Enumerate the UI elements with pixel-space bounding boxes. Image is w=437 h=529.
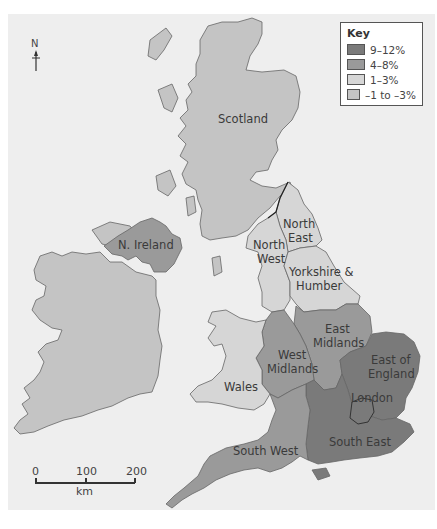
label-wales: Wales bbox=[224, 380, 258, 394]
key-label: –1 to –3% bbox=[365, 89, 416, 101]
north-arrow-icon bbox=[28, 38, 44, 72]
scale-tick bbox=[134, 478, 136, 483]
isle-of-wight bbox=[312, 468, 330, 480]
label-yorkshire-1: Yorkshire & bbox=[288, 265, 354, 279]
key-swatch-minus-1-3 bbox=[347, 89, 360, 100]
key-label: 1–3% bbox=[370, 74, 399, 86]
key-item: 9–12% bbox=[347, 42, 416, 57]
label-north-east-1: North bbox=[283, 217, 315, 231]
label-south-west: South West bbox=[233, 444, 299, 458]
label-west-midlands-2: Midlands bbox=[267, 362, 318, 376]
key-title: Key bbox=[347, 27, 416, 40]
island bbox=[158, 84, 178, 112]
key-item: 1–3% bbox=[347, 72, 416, 87]
scale-tick bbox=[35, 478, 37, 483]
isle-of-man bbox=[212, 256, 222, 276]
island bbox=[156, 170, 176, 196]
label-north-west-1: North bbox=[253, 238, 285, 252]
key-swatch-9-12 bbox=[347, 44, 365, 55]
label-yorkshire-2: Humber bbox=[296, 279, 343, 293]
island bbox=[148, 28, 172, 60]
key-item: –1 to –3% bbox=[347, 87, 416, 102]
label-n-ireland: N. Ireland bbox=[118, 238, 174, 252]
label-east-of-england-2: England bbox=[368, 367, 415, 381]
key-label: 4–8% bbox=[370, 59, 399, 71]
scale-label-100: 100 bbox=[76, 465, 97, 478]
scale-unit: km bbox=[76, 485, 93, 498]
label-north-west-2: West bbox=[257, 252, 286, 266]
north-arrow: N bbox=[28, 38, 44, 72]
label-london: London bbox=[351, 391, 393, 405]
key-swatch-4-8 bbox=[347, 59, 365, 70]
scale-label-0: 0 bbox=[32, 465, 39, 478]
label-east-of-england-1: East of bbox=[371, 353, 412, 367]
label-west-midlands-1: West bbox=[278, 348, 307, 362]
region-republic-of-ireland bbox=[14, 252, 162, 434]
label-east-midlands-2: Midlands bbox=[313, 336, 364, 350]
map-key: Key 9–12% 4–8% 1–3% –1 to –3% bbox=[340, 22, 423, 106]
island bbox=[186, 196, 196, 216]
label-east-midlands-1: East bbox=[325, 322, 350, 336]
key-swatch-1-3 bbox=[347, 74, 365, 85]
label-south-east: South East bbox=[329, 435, 391, 449]
key-item: 4–8% bbox=[347, 57, 416, 72]
scale-bar: 0 100 200 km bbox=[30, 465, 150, 505]
label-north-east-2: East bbox=[288, 231, 313, 245]
label-scotland: Scotland bbox=[218, 112, 268, 126]
scale-label-200: 200 bbox=[126, 465, 147, 478]
scale-tick bbox=[85, 478, 87, 483]
key-label: 9–12% bbox=[370, 44, 405, 56]
